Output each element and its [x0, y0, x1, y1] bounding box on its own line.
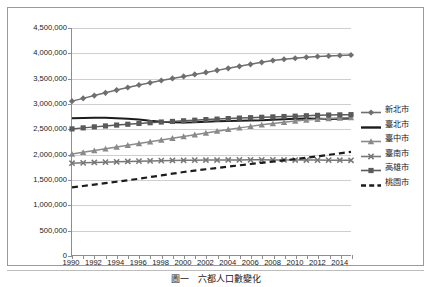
dashed-line-key: [360, 177, 382, 188]
series-marker: [303, 54, 309, 60]
series-marker: [136, 82, 142, 88]
chart-frame: 0500,0001,000,0001,500,0002,000,0002,500…: [7, 7, 424, 266]
series-marker: [337, 52, 343, 58]
y-axis-tick-label: 2,500,000: [33, 125, 67, 133]
series-marker: [348, 112, 353, 117]
triangle-line-key: [360, 133, 382, 144]
series-line: [72, 55, 351, 101]
y-axis-tick-label: 3,500,000: [33, 75, 67, 83]
series-marker: [181, 73, 187, 79]
y-axis-tick-label: 4,000,000: [33, 49, 67, 57]
series-marker: [326, 112, 331, 117]
series-marker: [293, 114, 298, 119]
legend-item-5[interactable]: 高雄市: [360, 162, 426, 173]
y-axis-tick-label: 4,500,000: [33, 24, 67, 32]
y-axis-tick-label: 3,000,000: [33, 100, 67, 108]
series-line: [72, 160, 351, 163]
legend-label: 臺南市: [385, 148, 409, 159]
y-axis-tick-label: 500,000: [40, 227, 67, 235]
series-marker: [114, 122, 119, 127]
series-marker: [102, 90, 108, 96]
legend-item-3[interactable]: 臺中市: [360, 133, 426, 144]
series-marker: [237, 116, 242, 121]
series-marker: [158, 77, 164, 83]
series-marker: [147, 80, 153, 86]
series-4: [69, 157, 353, 166]
y-axis-tick-label: 2,000,000: [33, 151, 67, 159]
plain-line-key: [360, 119, 382, 130]
series-marker: [170, 119, 175, 124]
legend-item-2[interactable]: 臺北市: [360, 119, 426, 130]
legend-label: 高雄市: [385, 162, 409, 173]
cross-line-key: [360, 148, 382, 159]
series-marker: [203, 69, 209, 75]
series-marker: [281, 114, 286, 119]
y-axis-tick-label: 1,000,000: [33, 201, 67, 209]
series-marker: [81, 125, 86, 130]
diamond-line-key: [360, 104, 382, 115]
series-line: [72, 118, 351, 155]
chart-screenshot: 0500,0001,000,0001,500,0002,000,0002,500…: [0, 0, 432, 287]
y-axis-labels: 0500,0001,000,0001,500,0002,000,0002,500…: [15, 28, 67, 256]
series-marker: [337, 112, 342, 117]
legend-item-6[interactable]: 桃園市: [360, 177, 426, 188]
series-marker: [314, 53, 320, 59]
series-marker: [226, 116, 231, 121]
series-marker: [69, 126, 74, 131]
series-marker: [192, 118, 197, 123]
figure-caption: 圖一 六都人口數變化: [0, 274, 432, 285]
series-marker: [292, 55, 298, 61]
chart-legend: 新北市臺北市臺中市臺南市高雄市桃園市: [360, 104, 426, 188]
series-marker: [225, 65, 231, 71]
series-layer: [72, 28, 351, 255]
series-marker: [169, 75, 175, 81]
series-marker: [270, 57, 276, 63]
series-marker: [236, 63, 242, 69]
series-marker: [159, 119, 164, 124]
y-axis-tick-label: 1,500,000: [33, 176, 67, 184]
legend-item-1[interactable]: 新北市: [360, 104, 426, 115]
series-marker: [181, 118, 186, 123]
series-marker: [214, 117, 219, 122]
legend-label: 臺北市: [385, 119, 409, 130]
series-marker: [148, 120, 153, 125]
series-6: [72, 152, 351, 188]
legend-label: 桃園市: [385, 177, 409, 188]
series-marker: [281, 56, 287, 62]
series-marker: [103, 123, 108, 128]
series-marker: [214, 67, 220, 73]
series-marker: [259, 115, 264, 120]
series-1: [69, 52, 354, 104]
series-line: [72, 152, 351, 188]
series-marker: [192, 71, 198, 77]
series-marker: [348, 52, 354, 58]
series-marker: [125, 84, 131, 90]
x-axis-tick-label: 2014: [327, 258, 353, 267]
legend-label: 臺中市: [385, 133, 409, 144]
series-marker: [270, 114, 275, 119]
series-marker: [80, 95, 86, 101]
series-marker: [136, 121, 141, 126]
series-marker: [259, 59, 265, 65]
legend-label: 新北市: [385, 104, 409, 115]
x-axis-labels: 1990199219941996199820002002200420062008…: [71, 258, 351, 270]
series-marker: [91, 93, 97, 99]
series-marker: [315, 113, 320, 118]
series-marker: [248, 115, 253, 120]
series-marker: [326, 53, 332, 59]
caption-divider: [7, 270, 424, 271]
series-marker: [203, 117, 208, 122]
square-line-key: [360, 162, 382, 173]
series-marker: [92, 124, 97, 129]
plot-area: [71, 28, 351, 256]
series-marker: [247, 61, 253, 67]
legend-item-4[interactable]: 臺南市: [360, 148, 426, 159]
series-marker: [304, 113, 309, 118]
series-marker: [125, 122, 130, 127]
series-marker: [114, 87, 120, 93]
